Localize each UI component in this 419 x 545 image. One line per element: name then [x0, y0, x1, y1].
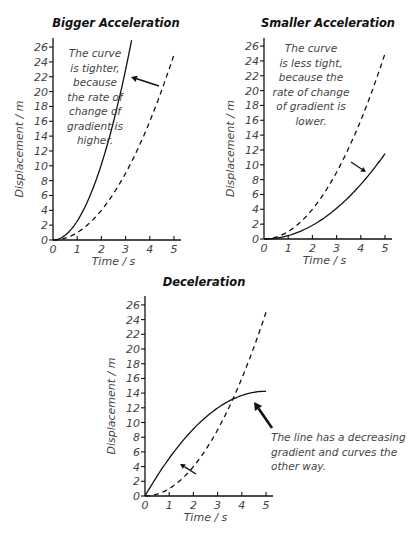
y-tick-label: 2	[252, 218, 259, 231]
x-axis-label: Time / s	[184, 511, 228, 524]
x-tick-label: 4	[357, 242, 364, 255]
x-tick-label: 0	[142, 499, 149, 512]
y-tick-label: 16	[126, 372, 140, 385]
y-tick-label: 24	[245, 55, 259, 68]
y-tick-label: 6	[133, 446, 140, 459]
y-tick-label: 26	[34, 41, 48, 54]
y-tick-label: 16	[34, 115, 48, 128]
y-tick-label: 4	[133, 461, 140, 474]
x-tick-label: 5	[171, 243, 178, 256]
small-arrow-shaft	[184, 467, 196, 474]
main-curve-solid	[264, 154, 385, 239]
x-axis-label: Time / s	[303, 254, 347, 267]
y-tick-label: 0	[133, 490, 140, 503]
y-tick-label: 10	[245, 159, 259, 172]
chart-title: Smaller Acceleration	[261, 16, 395, 30]
y-tick-label: 14	[245, 129, 259, 142]
y-tick-label: 0	[41, 234, 48, 247]
y-tick-label: 14	[126, 387, 140, 400]
y-tick-label: 18	[126, 358, 140, 371]
chart-title: Deceleration	[163, 275, 246, 289]
y-tick-label: 22	[245, 70, 259, 83]
y-axis-label: Displacement / m	[105, 357, 118, 454]
annotation-arrow-shaft	[259, 409, 272, 428]
x-tick-label: 5	[263, 499, 270, 512]
annotation-line: gradient is	[67, 120, 123, 132]
annotation-line: of gradient is	[276, 100, 346, 112]
y-tick-label: 8	[252, 174, 259, 187]
y-tick-label: 20	[34, 86, 48, 99]
y-axis-label: Displacement / m	[13, 100, 26, 197]
annotation-line: the rate of	[67, 91, 125, 103]
reference-curve-dashed	[145, 312, 266, 496]
annotation-line: is less tight,	[279, 57, 342, 69]
x-tick-label: 5	[382, 242, 389, 255]
annotation-line: higher.	[77, 134, 113, 146]
annotation-arrow-shaft	[351, 162, 362, 169]
y-tick-label: 8	[41, 175, 48, 188]
annotation-line: is tighter,	[70, 62, 119, 74]
annotation-line: The curve	[285, 42, 337, 54]
x-tick-label: 1	[166, 499, 173, 512]
annotation-line: The curve	[69, 47, 121, 59]
x-tick-label: 0	[261, 242, 268, 255]
y-tick-label: 6	[41, 189, 48, 202]
y-tick-label: 12	[126, 402, 140, 415]
x-tick-label: 4	[146, 243, 153, 256]
chart-title: Bigger Acceleration	[52, 16, 179, 30]
annotation-line: gradient and curves the	[271, 446, 397, 458]
y-tick-label: 4	[41, 204, 48, 217]
y-tick-label: 4	[252, 203, 259, 216]
annotation-line: because the	[279, 71, 344, 83]
y-tick-label: 6	[252, 188, 259, 201]
y-tick-label: 26	[126, 299, 140, 312]
main-curve-solid	[145, 391, 266, 496]
y-tick-label: 14	[34, 130, 48, 143]
x-tick-label: 4	[238, 499, 245, 512]
y-tick-label: 20	[126, 343, 140, 356]
chart-deceleration: Deceleration 024681012141618202224260123…	[105, 275, 406, 524]
annotation-line: lower.	[295, 115, 326, 127]
chart-bigger-acceleration: Bigger Acceleration 02468101214161820222…	[13, 16, 181, 268]
y-tick-label: 12	[245, 144, 259, 157]
y-tick-label: 2	[41, 219, 48, 232]
y-tick-label: 16	[245, 114, 259, 127]
annotation-line: rate of change	[273, 86, 350, 98]
x-axis-label: Time / s	[92, 255, 136, 268]
y-tick-label: 22	[34, 71, 48, 84]
x-tick-label: 0	[50, 243, 57, 256]
y-tick-label: 24	[34, 56, 48, 69]
figure-canvas: Bigger Acceleration 02468101214161820222…	[0, 0, 419, 545]
chart-smaller-acceleration: Smaller Acceleration 0246810121416182022…	[224, 16, 395, 267]
y-tick-label: 0	[252, 233, 259, 246]
annotation-arrow-shaft	[137, 79, 159, 86]
y-tick-label: 22	[126, 328, 140, 341]
y-tick-label: 8	[133, 431, 140, 444]
y-tick-label: 20	[245, 85, 259, 98]
y-tick-label: 10	[126, 417, 140, 430]
y-tick-label: 24	[126, 314, 140, 327]
y-tick-label: 18	[34, 100, 48, 113]
annotation-line: change of	[69, 105, 123, 117]
y-tick-label: 10	[34, 160, 48, 173]
annotation-line: The line has a decreasing	[271, 431, 406, 443]
y-tick-label: 12	[34, 145, 48, 158]
x-tick-label: 1	[285, 242, 292, 255]
y-tick-label: 2	[133, 475, 140, 488]
x-tick-label: 1	[74, 243, 81, 256]
annotation-line: other way.	[271, 460, 326, 472]
y-axis-label: Displacement / m	[224, 100, 237, 197]
annotation-line: because	[73, 76, 117, 88]
y-tick-label: 26	[245, 40, 259, 53]
y-tick-label: 18	[245, 99, 259, 112]
